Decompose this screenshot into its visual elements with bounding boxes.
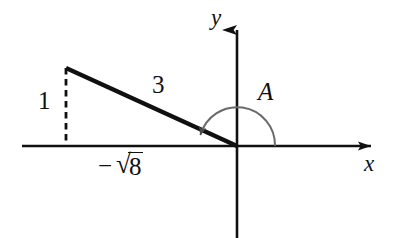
hypotenuse-length-label: 3 [152,72,165,97]
angle-label-a: A [258,79,273,104]
minus-sign-glyph: − [98,153,112,178]
opposite-side-length-label: 1 [38,88,51,113]
x-axis-label: x [364,152,374,175]
radicand-value: 8 [128,152,144,179]
adjacent-side-length-label: − √ 8 [98,152,143,179]
radical-expression: √ 8 [116,152,143,179]
y-axis-label: y [211,6,221,29]
diagram-canvas [0,0,401,238]
trig-diagram-figure: y x A 3 1 − √ 8 [0,0,401,238]
